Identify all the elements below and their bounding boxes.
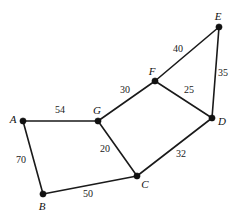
edge-weight-f-d: 25 (184, 85, 194, 95)
graph-edge-c-d (137, 118, 212, 176)
edge-weight-f-e: 40 (173, 44, 183, 54)
vertex-label-b: B (39, 201, 46, 212)
graph-canvas (0, 0, 245, 222)
edges-group (23, 27, 219, 194)
edge-weight-g-f: 30 (120, 85, 130, 95)
edge-weight-a-b: 70 (16, 155, 26, 165)
vertex-label-c: C (141, 179, 148, 190)
graph-vertex-d (209, 115, 215, 121)
vertex-label-e: E (215, 11, 222, 22)
graph-edge-f-e (155, 27, 219, 81)
edge-weight-e-d: 35 (218, 68, 228, 78)
graph-vertex-f (152, 78, 158, 84)
graph-vertex-a (20, 118, 26, 124)
edge-weight-c-d: 32 (176, 149, 186, 159)
vertex-label-g: G (93, 105, 101, 116)
graph-vertex-g (95, 118, 101, 124)
vertex-label-f: F (149, 66, 156, 77)
graph-vertex-b (40, 191, 46, 197)
graph-vertex-e (216, 24, 222, 30)
vertex-label-d: D (218, 116, 226, 127)
graph-edge-a-b (23, 121, 43, 194)
edge-weight-b-c: 50 (83, 189, 93, 199)
vertex-label-a: A (10, 114, 17, 125)
edge-weight-g-c: 20 (100, 144, 110, 154)
edge-weight-a-g: 54 (55, 105, 65, 115)
graph-vertex-c (134, 173, 140, 179)
graph-diagram: ABCDEFG 547050203040253532 (0, 0, 245, 222)
